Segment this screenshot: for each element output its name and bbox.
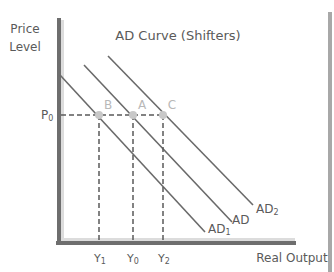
y0-label: Y0	[126, 252, 139, 266]
y-axis	[57, 18, 61, 244]
x-axis-shadow	[61, 238, 295, 241]
p0-label: P0	[41, 108, 53, 123]
y-axis-label-line1: Price	[10, 22, 39, 36]
ad-label: AD	[232, 213, 249, 227]
ad1-label: AD1	[208, 222, 231, 237]
point-c-label: C	[168, 98, 176, 112]
point-c	[159, 111, 167, 119]
x-axis-label: Real Output	[256, 251, 328, 265]
point-a-label: A	[138, 98, 147, 112]
point-a	[129, 111, 137, 119]
y2-label: Y2	[157, 252, 170, 266]
y-axis-shadow	[61, 20, 64, 242]
chart-title: AD Curve (Shifters)	[115, 28, 240, 43]
ad2-label: AD2	[256, 202, 279, 217]
y-axis-label-line2: Level	[9, 40, 41, 54]
ad1-curve	[60, 75, 205, 232]
ad-curve	[84, 65, 232, 222]
point-b-label: B	[104, 98, 112, 112]
ad2-curve	[108, 56, 253, 205]
x-axis	[56, 241, 296, 245]
ad-curve-chart: AD Curve (Shifters) Price Level Real Out…	[0, 0, 334, 272]
right-border	[328, 12, 332, 272]
point-b	[95, 111, 103, 119]
y1-label: Y1	[93, 252, 106, 266]
